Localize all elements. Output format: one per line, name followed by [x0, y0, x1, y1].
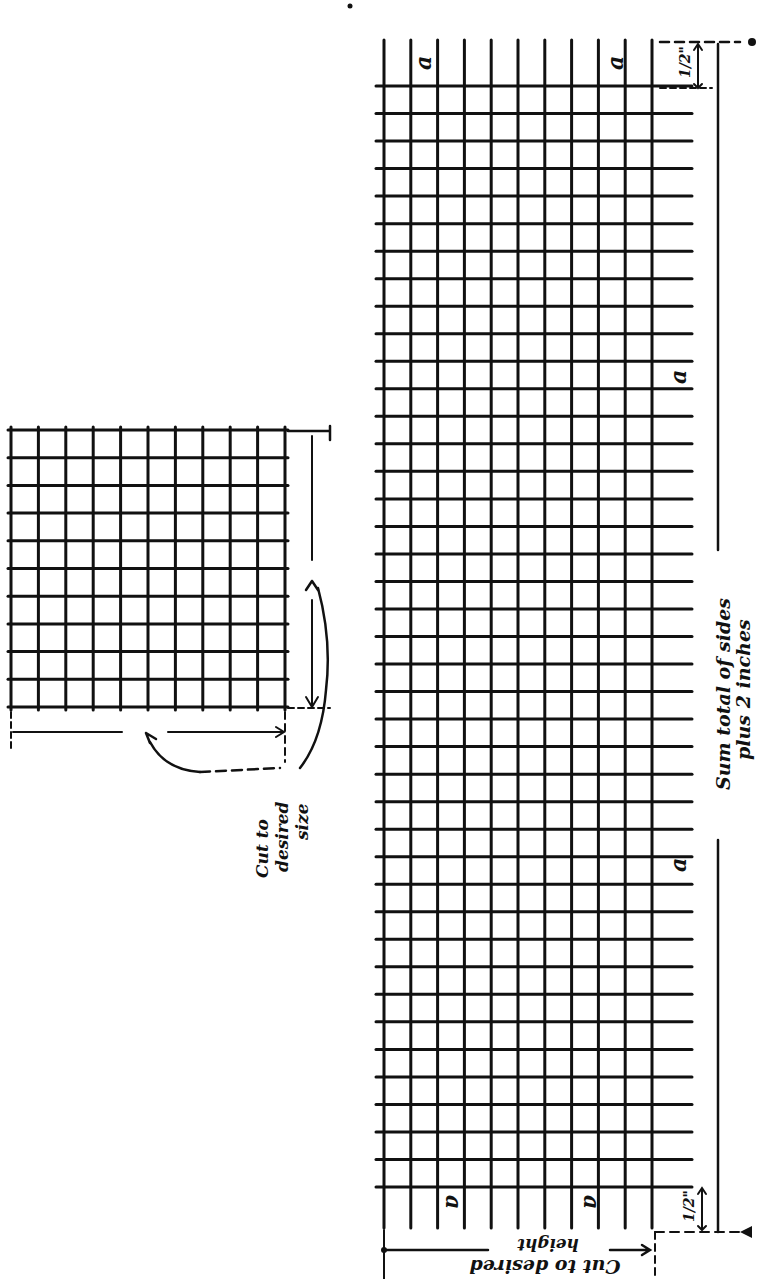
sum-total-label: Sum total of sides	[712, 598, 734, 790]
large-mesh-grid	[376, 40, 692, 1228]
label-a: a	[579, 1195, 605, 1209]
height-dimension: height Cut to desired	[381, 1230, 655, 1279]
annotation-line-3: size	[292, 803, 312, 841]
wire-mesh-diagram: Cut to desired size a a a a a a 1/2" 1/2…	[0, 0, 768, 1279]
half-inch-bottom-label: 1/2"	[681, 1190, 697, 1222]
plus-two-inches-label: plus 2 inches	[732, 619, 754, 760]
small-grid-dimension-marks	[11, 426, 330, 772]
label-a: a	[665, 370, 691, 384]
annotation-line-1: Cut to	[252, 819, 272, 878]
cut-to-desired-label: Cut to desired	[469, 1256, 620, 1278]
half-inch-top-label: 1/2"	[677, 46, 693, 78]
label-a: a	[410, 56, 436, 70]
edge-labels: a a a a a a	[410, 56, 691, 1210]
label-a: a	[602, 56, 628, 70]
small-mesh-grid	[8, 427, 288, 710]
height-label: height	[517, 1235, 579, 1255]
label-a: a	[665, 858, 691, 872]
cut-to-size-annotation: Cut to desired size	[252, 801, 312, 878]
annotation-line-2: desired	[272, 801, 292, 872]
label-a: a	[441, 1195, 467, 1209]
